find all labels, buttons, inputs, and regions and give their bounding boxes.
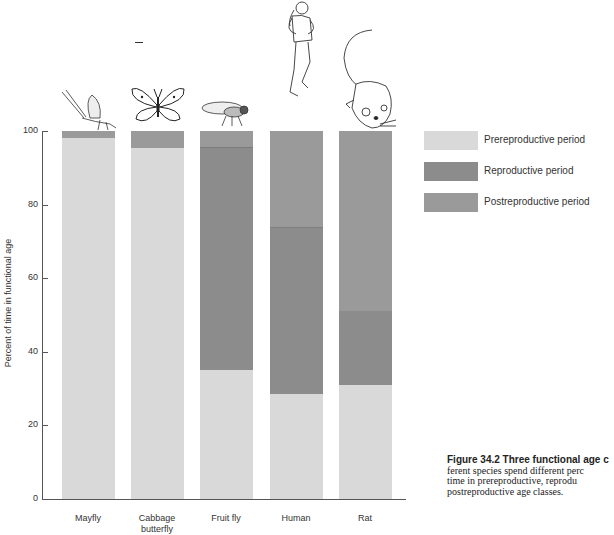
segment-reproductive xyxy=(339,311,392,385)
bar-human xyxy=(270,131,323,499)
caption-title: Figure 34.2 Three functional age c xyxy=(447,454,609,465)
fruit-fly-icon xyxy=(200,98,252,128)
y-tick-label-80: 80 xyxy=(0,199,38,209)
mayfly-icon xyxy=(60,90,120,130)
segment-postreproductive xyxy=(200,131,253,147)
legend-swatch-reproductive xyxy=(424,162,478,181)
y-tick-label-60: 60 xyxy=(0,272,38,282)
segment-prereproductive xyxy=(339,385,392,499)
bar-fruit-fly xyxy=(200,131,253,499)
legend-label-postreproductive: Postreproductive period xyxy=(484,196,590,207)
legend-label-reproductive: Reproductive period xyxy=(484,165,574,176)
y-tick-100 xyxy=(42,131,48,132)
segment-prereproductive xyxy=(270,394,323,499)
y-axis-label: Percent of time in functional age xyxy=(3,223,13,383)
human-runner-icon xyxy=(272,0,322,100)
y-tick-40 xyxy=(42,352,48,353)
y-tick-80 xyxy=(42,205,48,206)
dash-mark xyxy=(135,42,143,43)
segment-postreproductive xyxy=(339,131,392,311)
segment-postreproductive xyxy=(62,131,115,138)
x-label-fruit-fly: Fruit fly xyxy=(186,513,266,524)
segment-reproductive xyxy=(270,228,323,394)
y-tick-20 xyxy=(42,425,48,426)
y-axis-line xyxy=(42,131,43,499)
bar-rat xyxy=(339,131,392,499)
legend-swatch-prereproductive xyxy=(424,131,478,150)
segment-postreproductive xyxy=(270,131,323,227)
x-label-human: Human xyxy=(256,513,336,524)
y-tick-label-0: 0 xyxy=(0,493,38,503)
y-tick-label-100: 100 xyxy=(0,125,38,135)
x-label-cabbage-butterfly: Cabbage butterfly xyxy=(117,513,197,535)
legend-swatch-postreproductive xyxy=(424,193,478,212)
x-label-line1: Cabbage xyxy=(117,513,197,524)
x-label-rat: Rat xyxy=(325,513,405,524)
segment-prereproductive xyxy=(200,370,253,499)
x-label-mayfly: Mayfly xyxy=(48,513,128,524)
butterfly-icon xyxy=(130,85,186,127)
y-tick-label-20: 20 xyxy=(0,419,38,429)
x-label-line2: butterfly xyxy=(117,524,197,535)
segment-postreproductive xyxy=(131,131,184,148)
bar-cabbage-butterfly xyxy=(131,131,184,499)
x-axis-line xyxy=(42,499,406,500)
caption-line: postreproductive age classes. xyxy=(447,487,614,498)
bar-mayfly xyxy=(62,131,115,499)
figure-caption: Figure 34.2 Three functional age c feren… xyxy=(447,455,614,497)
rat-icon xyxy=(336,28,398,132)
segment-prereproductive xyxy=(62,138,115,499)
legend-label-prereproductive: Prereproductive period xyxy=(484,134,585,145)
y-tick-label-40: 40 xyxy=(0,346,38,356)
caption-line: time in prereproductive, reprodu xyxy=(447,476,614,487)
segment-reproductive xyxy=(200,148,253,370)
segment-prereproductive xyxy=(131,148,184,499)
y-tick-60 xyxy=(42,278,48,279)
